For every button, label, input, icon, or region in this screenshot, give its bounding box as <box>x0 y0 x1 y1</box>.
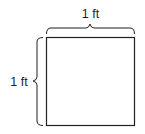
square <box>47 38 135 126</box>
left-dimension-label: 1 ft <box>10 75 28 89</box>
top-brace-icon <box>47 24 135 34</box>
square-diagram: 1 ft 1 ft <box>0 0 145 134</box>
left-brace-icon <box>33 38 43 126</box>
top-dimension-label: 1 ft <box>82 7 100 21</box>
